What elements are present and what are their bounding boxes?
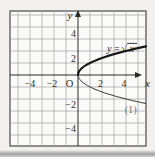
radical-sign: √ [122, 43, 128, 54]
y-tick-neg-4: −4 [65, 123, 76, 134]
curve-equation-label: y = √ x [106, 43, 135, 54]
x-tick-2: 2 [98, 78, 103, 89]
x-tick-neg-2: −2 [47, 78, 58, 89]
coordinate-plane: y x O −4 −2 2 4 4 2 −2 −4 y = √ x (1) [0, 0, 155, 157]
x-axis-label: x [144, 77, 150, 89]
figure-canvas: y x O −4 −2 2 4 4 2 −2 −4 y = √ x (1) [0, 0, 155, 157]
x-tick-neg-4: −4 [25, 78, 36, 89]
y-tick-neg-2: −2 [65, 99, 76, 110]
y-tick-4: 4 [71, 28, 76, 39]
radicand-x: x [129, 43, 135, 54]
x-tick-4: 4 [122, 78, 127, 89]
origin-label: O [66, 78, 74, 89]
y-tick-2: 2 [71, 53, 76, 64]
figure-caption: (1) [125, 105, 138, 116]
y-axis-label: y [67, 9, 73, 21]
scan-shadow [0, 150, 155, 157]
equation-y: y [106, 43, 112, 54]
equation-equals: = [114, 43, 120, 54]
